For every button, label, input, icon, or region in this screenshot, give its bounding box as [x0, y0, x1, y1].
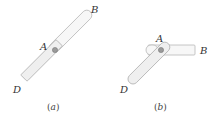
caption-a: (a) [47, 102, 59, 112]
pivot-pin-icon [52, 47, 57, 52]
figure-a: A B D (a) [12, 4, 98, 112]
label-a: A [39, 41, 47, 52]
label-d: D [12, 84, 21, 95]
caption-b: (b) [154, 102, 167, 112]
label-b: B [90, 4, 98, 15]
pivot-pin-icon [158, 47, 163, 52]
label-d: D [119, 84, 128, 95]
diagram-canvas: A B D (a) A B D (b) [0, 0, 218, 121]
label-a: A [155, 33, 163, 44]
figure-b: A B D (b) [119, 33, 207, 112]
label-b: B [199, 45, 207, 56]
